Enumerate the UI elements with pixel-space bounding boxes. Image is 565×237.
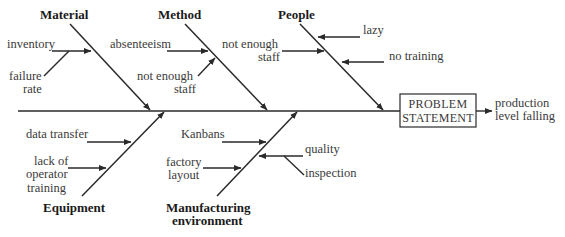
sub-cause-line-inspection (284, 156, 304, 175)
category-equipment: data transfer lack of operator training … (26, 112, 164, 215)
problem-statement-line-2: STATEMENT (402, 111, 474, 125)
category-manufacturing-environment: Kanbans factory layout quality inspectio… (166, 112, 357, 228)
category-label-material: Material (40, 7, 89, 22)
cause-failure-rate-line-1: failure (9, 69, 42, 83)
manufacturing-bone (217, 112, 297, 196)
category-label-equipment: Equipment (43, 200, 106, 215)
cause-kanbans: Kanbans (181, 127, 225, 141)
category-label-method: Method (158, 7, 202, 22)
cause-quality: quality (305, 142, 340, 156)
equipment-bone (82, 112, 164, 196)
cause-lazy: lazy (363, 23, 385, 37)
cause-inspection: inspection (305, 166, 357, 180)
category-label-manufacturing-line-2: environment (172, 213, 243, 228)
cause-lack-of-operator-training-line-2: operator (26, 167, 68, 181)
problem-statement-line-1: PROBLEM (409, 97, 468, 111)
cause-lack-of-operator-training-line-3: training (27, 181, 67, 195)
effect-label-line-2: level falling (495, 109, 556, 123)
sub-cause-line-failure-rate (44, 51, 69, 76)
cause-failure-rate-line-2: rate (23, 82, 42, 96)
category-label-people: People (278, 7, 315, 22)
cause-method-not-enough-staff-line-1: not enough (137, 69, 194, 83)
cause-factory-layout-line-2: layout (168, 168, 200, 182)
effect-label-line-1: production (495, 96, 550, 110)
problem-statement-box: PROBLEM STATEMENT (400, 94, 476, 127)
cause-people-not-enough-staff-line-2: staff (258, 50, 281, 64)
cause-no-training: no training (389, 49, 444, 63)
category-method: Method absenteeism not enough staff (110, 7, 267, 110)
cause-method-not-enough-staff-line-2: staff (174, 82, 197, 96)
fishbone-diagram: PROBLEM STATEMENT production level falli… (0, 0, 565, 237)
category-material: Material inventory failure rate (7, 7, 150, 110)
cause-arrow-method-not-enough-staff (198, 58, 215, 76)
cause-lack-of-operator-training-line-1: lack of (34, 154, 69, 168)
cause-inventory: inventory (7, 37, 56, 51)
cause-people-not-enough-staff-line-1: not enough (222, 37, 279, 51)
cause-factory-layout-line-1: factory (166, 155, 202, 169)
cause-absenteeism: absenteeism (110, 37, 171, 51)
cause-data-transfer: data transfer (26, 127, 89, 141)
